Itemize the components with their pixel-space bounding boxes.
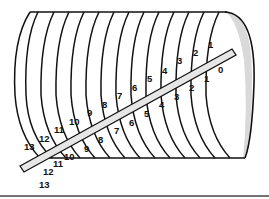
svg-text:5: 5 [147,73,153,84]
svg-text:1: 1 [208,39,214,50]
svg-text:1: 1 [204,73,210,84]
svg-text:7: 7 [114,125,119,136]
svg-text:3: 3 [177,55,182,66]
svg-text:10: 10 [64,151,75,162]
svg-text:8: 8 [98,134,103,145]
svg-text:9: 9 [84,143,89,154]
svg-text:6: 6 [129,117,134,128]
svg-text:12: 12 [43,166,54,177]
svg-text:6: 6 [132,82,137,93]
svg-text:9: 9 [87,107,92,118]
svg-text:13: 13 [39,179,50,190]
svg-text:13: 13 [24,141,35,152]
svg-text:5: 5 [144,108,150,119]
svg-text:11: 11 [54,124,65,135]
svg-text:4: 4 [159,99,165,110]
svg-text:8: 8 [102,99,107,110]
svg-text:4: 4 [162,65,168,76]
svg-text:10: 10 [69,116,80,127]
svg-text:11: 11 [53,158,64,169]
cylinder-coil-diagram: 1 2 3 4 5 6 7 8 9 10 11 12 13 0 1 2 3 4 … [0,0,269,199]
svg-text:2: 2 [189,82,194,93]
svg-text:3: 3 [174,91,179,102]
diagram-canvas: 1 2 3 4 5 6 7 8 9 10 11 12 13 0 1 2 3 4 … [0,0,269,199]
cylinder-end-cap [225,12,252,158]
diagonal-rod [20,49,236,172]
svg-text:12: 12 [39,133,50,144]
svg-text:2: 2 [193,47,198,58]
svg-text:7: 7 [117,90,122,101]
svg-text:0: 0 [218,64,223,75]
